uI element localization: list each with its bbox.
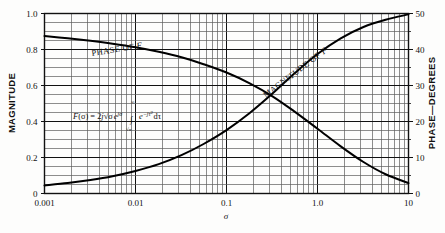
formula-arg: (σ) [78,112,88,121]
y-tick-label: 1.0 [26,9,38,19]
y-tick-label: 0 [33,189,38,199]
y2-tick-label: 10 [416,153,426,163]
formula-integral-lower-limit: √σ [126,127,132,132]
formula-line: F(σ) = 2j√σejσ [72,111,123,121]
y-tick-label: 0.4 [26,117,38,127]
formula-equals: = 2 [88,112,101,121]
x-axis-symbol: σ [224,211,229,221]
y-tick-label: 0.8 [26,45,38,55]
formula-sqrt-sigma: √σ [104,112,114,121]
y2-tick-label: 50 [416,9,426,19]
y2-tick-label: 30 [416,81,426,91]
x-tick-label: 1.0 [312,198,324,208]
x-tick-label: 0.001 [34,198,54,208]
y2-tick-label: 20 [416,117,426,127]
right-axis-title: PHASE—DEGREES [426,57,437,150]
chart-svg: 0.0010.010.11.010 00.20.40.60.81.0 01020… [0,0,445,233]
y-tick-label: 0.2 [26,153,37,163]
formula-integral-upper-limit: ∞ [131,100,135,105]
formula-dtau: dτ [154,112,162,121]
figure-semilog-chart: 0.0010.010.11.010 00.20.40.60.81.0 01020… [0,0,445,233]
x-tick-label: 0.01 [128,198,144,208]
y2-tick-label: 40 [416,45,426,55]
y-tick-label: 0.6 [26,81,38,91]
y2-tick-label: 0 [416,189,421,199]
x-tick-label: 0.1 [221,198,232,208]
x-tick-label: 10 [404,198,414,208]
left-axis-title: MAGNITUDE [6,73,17,133]
